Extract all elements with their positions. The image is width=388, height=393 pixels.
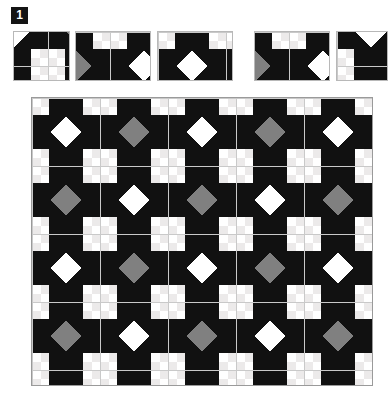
- quilt-block: [158, 32, 226, 80]
- quilt-block: [236, 302, 304, 370]
- quilt-block: [289, 32, 329, 80]
- sample-tile-5[interactable]: [336, 31, 388, 81]
- quilt-block: [48, 66, 69, 80]
- quilt-block: [32, 234, 100, 302]
- quilt-block: [236, 370, 304, 385]
- quilt-block: [304, 98, 372, 166]
- quilt-block: [100, 98, 168, 166]
- quilt-block: [32, 98, 100, 166]
- sample-tile-5-viewport: [337, 32, 387, 80]
- quilt-block: [76, 32, 110, 80]
- quilt-block: [168, 370, 236, 385]
- quilt-block: [100, 166, 168, 234]
- quilt-viewport: [32, 98, 372, 385]
- quilt-block: [337, 32, 387, 66]
- quilt-block: [255, 32, 289, 80]
- quilt-block: [100, 370, 168, 385]
- quilt-block: [168, 98, 236, 166]
- quilt-block: [32, 370, 100, 385]
- sample-tile-2[interactable]: [75, 31, 151, 81]
- quilt-block: [236, 166, 304, 234]
- quilt-block: [32, 166, 100, 234]
- figure-number-badge: 1: [11, 7, 28, 24]
- quilt-block: [100, 302, 168, 370]
- quilt-block: [168, 166, 236, 234]
- quilt-block: [100, 234, 168, 302]
- quilt-block: [168, 234, 236, 302]
- quilt-block: [236, 98, 304, 166]
- quilt-block: [32, 302, 100, 370]
- quilt-block: [337, 66, 387, 80]
- quilt-block: [304, 370, 372, 385]
- sample-tile-1-viewport: [14, 32, 69, 80]
- quilt-pattern-canvas: [31, 97, 373, 386]
- quilt-block: [304, 166, 372, 234]
- quilt-block: [236, 234, 304, 302]
- sample-tile-strip: [0, 31, 388, 83]
- quilt-block: [304, 302, 372, 370]
- sample-tile-4[interactable]: [254, 31, 330, 81]
- sample-tile-3[interactable]: [157, 31, 233, 81]
- quilt-block: [48, 32, 69, 66]
- quilt-block: [110, 32, 150, 80]
- quilt-block: [168, 302, 236, 370]
- quilt-block: [304, 234, 372, 302]
- sample-tile-1[interactable]: [13, 31, 70, 81]
- quilt-block: [14, 66, 48, 80]
- sample-tile-3-viewport: [158, 32, 232, 80]
- quilt-block: [14, 32, 48, 66]
- quilt-block: [226, 32, 232, 80]
- sample-tile-2-viewport: [76, 32, 150, 80]
- sample-tile-4-viewport: [255, 32, 329, 80]
